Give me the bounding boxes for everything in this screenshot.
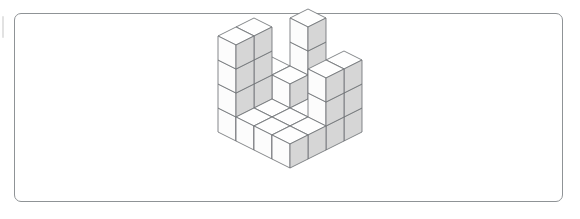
figure-page <box>0 0 580 219</box>
figure-frame <box>14 13 563 202</box>
left-edge-mark <box>2 16 4 38</box>
